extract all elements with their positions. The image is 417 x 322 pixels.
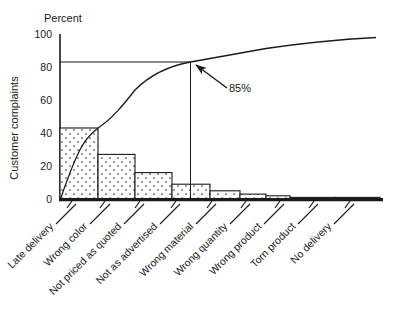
leader-line bbox=[124, 204, 144, 224]
bar-late-delivery bbox=[60, 128, 98, 199]
callout-arrow bbox=[196, 65, 227, 88]
pareto-chart: Percent Customer complaints 100 80 60 40… bbox=[0, 0, 417, 322]
leader-line bbox=[230, 204, 250, 224]
y-tick-label: 80 bbox=[40, 61, 52, 73]
y-tick-label: 0 bbox=[46, 193, 52, 205]
leader-line bbox=[56, 204, 76, 224]
y-tick-label: 100 bbox=[34, 28, 52, 40]
bar-series bbox=[60, 128, 380, 199]
y-tick-label: 20 bbox=[40, 160, 52, 172]
secondary-axis-label: Percent bbox=[44, 12, 82, 24]
x-axis-category-labels: Late delivery Wrong color Not priced as … bbox=[5, 219, 334, 297]
y-axis-ticks: 100 80 60 40 20 0 bbox=[34, 28, 52, 205]
y-tick-label: 60 bbox=[40, 94, 52, 106]
bar-wrong-material bbox=[210, 191, 240, 199]
leader-line bbox=[264, 204, 284, 224]
category-label-not-as-advertised: Not as advertised bbox=[93, 220, 159, 286]
y-tick-label: 40 bbox=[40, 127, 52, 139]
leader-line bbox=[298, 204, 318, 224]
leader-line bbox=[160, 204, 180, 224]
bar-not-priced-as-quoted bbox=[135, 173, 172, 199]
leader-line bbox=[196, 204, 216, 224]
y-axis-label: Customer complaints bbox=[8, 76, 20, 180]
annotation-85-percent: 85% bbox=[229, 82, 251, 94]
pareto-chart-svg: Percent Customer complaints 100 80 60 40… bbox=[0, 0, 417, 322]
leader-line bbox=[334, 204, 354, 224]
bar-wrong-color bbox=[98, 154, 135, 199]
